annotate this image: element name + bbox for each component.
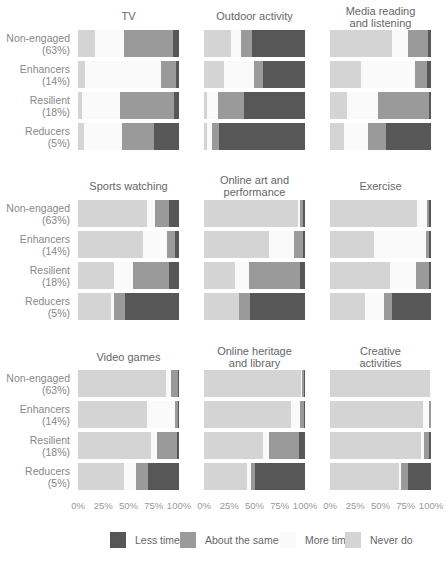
- bar-segment-less-time: [300, 262, 305, 289]
- group-share: (63%): [0, 44, 70, 56]
- stacked-bar: [330, 92, 431, 119]
- bar-segment-less-time: [429, 92, 431, 119]
- bar-segment-about-same: [120, 92, 174, 119]
- x-tick-label: 0%: [71, 500, 85, 511]
- stacked-bar: [78, 231, 179, 258]
- bar-segment-never-do: [78, 61, 85, 88]
- group-share: (5%): [0, 477, 70, 489]
- stacked-bar: [78, 262, 179, 289]
- group-name: Reducers: [0, 465, 70, 477]
- x-tick-label: 75%: [396, 500, 415, 511]
- stacked-bar: [78, 30, 179, 57]
- row-label: Resilient(18%): [0, 264, 70, 288]
- stacked-bar: [330, 30, 431, 57]
- row-label: Enhancers(14%): [0, 403, 70, 427]
- panel-title-sports: Sports watching: [68, 180, 189, 192]
- bar-segment-about-same: [155, 200, 169, 227]
- group-share: (14%): [0, 245, 70, 257]
- group-share: (5%): [0, 137, 70, 149]
- group-name: Non-engaged: [0, 372, 70, 384]
- legend-label-less-time: Less time: [135, 534, 180, 546]
- stacked-bar: [330, 370, 431, 397]
- bar-segment-never-do: [78, 401, 147, 428]
- bar-segment-never-do: [78, 262, 114, 289]
- x-tick-label: 50%: [119, 500, 138, 511]
- stacked-bar: [204, 401, 305, 428]
- bar-segment-never-do: [204, 262, 235, 289]
- bar-segment-never-do: [330, 432, 421, 459]
- stacked-bar: [204, 370, 305, 397]
- bar-segment-never-do: [78, 463, 124, 490]
- x-tick-label: 50%: [371, 500, 390, 511]
- bar-segment-more-time: [224, 61, 254, 88]
- bar-segment-about-same: [384, 293, 392, 320]
- bar-segment-less-time: [252, 30, 305, 57]
- bar-segment-about-same: [429, 401, 431, 428]
- bar-segment-more-time: [269, 231, 294, 258]
- bar-segment-less-time: [173, 30, 179, 57]
- group-name: Reducers: [0, 295, 70, 307]
- bar-segment-about-same: [136, 463, 148, 490]
- bar-segment-never-do: [330, 370, 430, 397]
- bar-segment-about-same: [167, 231, 175, 258]
- x-axis: 0%25%50%75%100%: [189, 500, 319, 512]
- bar-segment-less-time: [386, 123, 431, 150]
- x-tick-label: 100%: [419, 500, 443, 511]
- bar-segment-more-time: [344, 123, 368, 150]
- stacked-bar: [330, 123, 431, 150]
- stacked-bar: [204, 262, 305, 289]
- row-label: Resilient(18%): [0, 94, 70, 118]
- bar-segment-less-time: [219, 123, 305, 150]
- legend-label-never-do: Never do: [370, 534, 413, 546]
- group-name: Resilient: [0, 94, 70, 106]
- stacked-bar: [204, 231, 305, 258]
- row-label: Reducers(5%): [0, 125, 70, 149]
- bar-segment-never-do: [330, 262, 390, 289]
- bar-segment-never-do: [78, 30, 95, 57]
- bar-segment-about-same: [114, 293, 125, 320]
- x-tick-label: 100%: [167, 500, 191, 511]
- bar-segment-never-do: [204, 293, 239, 320]
- panel-title-heritage: Online heritage and library: [194, 345, 315, 369]
- group-share: (14%): [0, 415, 70, 427]
- bar-segment-less-time: [429, 432, 431, 459]
- bar-segment-more-time: [95, 30, 124, 57]
- group-share: (5%): [0, 307, 70, 319]
- group-share: (63%): [0, 214, 70, 226]
- bar-segment-less-time: [177, 432, 179, 459]
- bar-segment-less-time: [429, 200, 431, 227]
- panel-title-creative-line1: Creative: [320, 345, 441, 357]
- bar-segment-more-time: [430, 370, 431, 397]
- bar-segment-more-time: [114, 262, 132, 289]
- bar-segment-more-time: [147, 200, 155, 227]
- bar-segment-more-time: [231, 30, 241, 57]
- bar-segment-more-time: [84, 123, 122, 150]
- bar-segment-never-do: [204, 200, 298, 227]
- bar-segment-never-do: [330, 231, 374, 258]
- bar-segment-more-time: [374, 231, 426, 258]
- x-tick-label: 0%: [197, 500, 211, 511]
- group-name: Enhancers: [0, 63, 70, 75]
- panel-title-video: Video games: [68, 351, 189, 363]
- bar-segment-more-time: [417, 200, 427, 227]
- bar-segment-never-do: [204, 401, 291, 428]
- bar-segment-about-same: [269, 432, 299, 459]
- group-name: Non-engaged: [0, 202, 70, 214]
- x-tick-label: 75%: [270, 500, 289, 511]
- group-name: Resilient: [0, 264, 70, 276]
- bar-segment-about-same: [401, 463, 408, 490]
- stacked-bar: [204, 432, 305, 459]
- bar-segment-more-time: [235, 262, 249, 289]
- bar-segment-never-do: [330, 463, 399, 490]
- bar-segment-about-same: [122, 123, 153, 150]
- bar-segment-less-time: [299, 432, 305, 459]
- bar-segment-about-same: [133, 262, 169, 289]
- x-tick-label: 25%: [346, 500, 365, 511]
- legend-item-about-same: About the same: [180, 532, 279, 548]
- row-label: Non-engaged(63%): [0, 202, 70, 226]
- bar-segment-less-time: [427, 61, 431, 88]
- legend-item-less-time: Less time: [110, 532, 180, 548]
- bar-segment-more-time: [347, 92, 378, 119]
- stacked-bar: [78, 123, 179, 150]
- bar-segment-never-do: [78, 293, 111, 320]
